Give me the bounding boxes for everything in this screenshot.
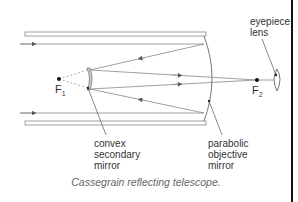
parabolic-objective-mirror bbox=[204, 36, 212, 121]
convex-secondary-mirror bbox=[87, 68, 92, 90]
secondary-mirror-label: convex secondary mirror bbox=[94, 138, 140, 171]
primary-mirror-label: parabolic objective mirror bbox=[208, 138, 249, 171]
f2-label: F2 bbox=[252, 85, 263, 100]
eyepiece-label: eyepiece lens bbox=[250, 16, 290, 38]
caption: Cassegrain reflecting telescope. bbox=[0, 176, 292, 188]
f1-label: F1 bbox=[55, 84, 66, 99]
focal-point-f2 bbox=[255, 78, 259, 82]
tube-top-wall bbox=[25, 32, 206, 36]
tube-bottom-wall bbox=[25, 121, 206, 125]
focal-point-f1 bbox=[57, 77, 61, 81]
